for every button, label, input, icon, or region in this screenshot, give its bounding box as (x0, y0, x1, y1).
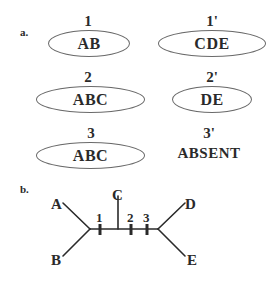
taxon-label-b: B (51, 252, 61, 268)
branch-b (63, 229, 90, 256)
phylogenetic-tree: A B C D E 1 2 3 (0, 0, 280, 286)
taxon-label-e: E (187, 252, 197, 268)
branch-d (158, 203, 185, 229)
branch-a (63, 203, 90, 229)
taxon-label-d: D (185, 196, 196, 212)
branch-mark-label-2: 2 (127, 210, 134, 225)
taxon-label-a: A (51, 196, 62, 212)
branch-e (158, 229, 185, 256)
branch-mark-label-1: 1 (96, 210, 103, 225)
taxon-label-c: C (112, 187, 123, 203)
branch-mark-label-3: 3 (143, 210, 150, 225)
